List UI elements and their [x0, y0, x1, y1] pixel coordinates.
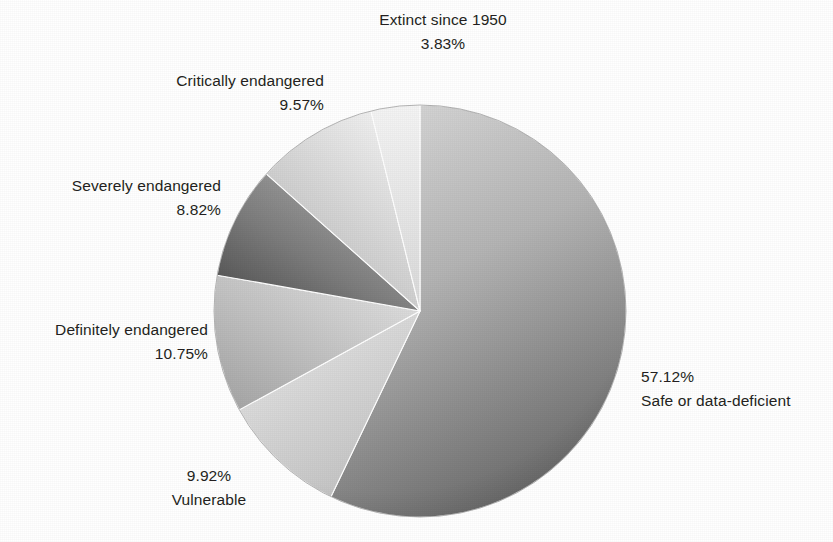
label-extinct-name: Extinct since 1950 [337, 8, 549, 32]
label-safe-or-data-deficient: 57.12% Safe or data-deficient [641, 365, 831, 413]
label-severely-endangered: Severely endangered 8.82% [21, 174, 221, 222]
label-safe-percent: 57.12% [641, 365, 831, 389]
label-definitely-name: Definitely endangered [1, 318, 208, 342]
pie-rim-shading [214, 105, 626, 517]
pie-chart-figure: Extinct since 1950 3.83% Critically enda… [0, 0, 833, 542]
label-safe-name: Safe or data-deficient [641, 389, 831, 413]
label-extinct-percent: 3.83% [337, 32, 549, 56]
label-vulnerable-name: Vulnerable [134, 488, 284, 512]
label-critically-name: Critically endangered [120, 69, 324, 93]
label-extinct-since-1950: Extinct since 1950 3.83% [337, 8, 549, 56]
label-definitely-endangered: Definitely endangered 10.75% [1, 318, 208, 366]
label-severely-name: Severely endangered [21, 174, 221, 198]
label-critically-endangered: Critically endangered 9.57% [120, 69, 324, 117]
label-severely-percent: 8.82% [21, 198, 221, 222]
label-definitely-percent: 10.75% [1, 342, 208, 366]
label-critically-percent: 9.57% [120, 93, 324, 117]
label-vulnerable: 9.92% Vulnerable [134, 464, 284, 512]
label-vulnerable-percent: 9.92% [134, 464, 284, 488]
